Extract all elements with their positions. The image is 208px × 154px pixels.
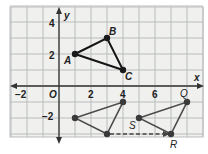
label-c: C xyxy=(125,71,133,82)
y-tick-2: 2 xyxy=(49,50,55,61)
point-a xyxy=(72,51,78,57)
label-a: A xyxy=(63,55,71,66)
origin-label: O xyxy=(49,89,57,100)
label-q: Q xyxy=(180,88,188,99)
label-r: R xyxy=(170,139,177,150)
y-axis-down-arrow-icon xyxy=(56,137,62,144)
x-tick-4: 4 xyxy=(120,89,126,100)
point-intermediate-2 xyxy=(120,99,126,105)
x-tick-neg2: −2 xyxy=(15,89,27,100)
point-intermediate-1 xyxy=(72,115,78,121)
point-s xyxy=(136,115,142,121)
label-b: B xyxy=(109,26,116,37)
x-tick-2: 2 xyxy=(88,89,94,100)
y-tick-4: 4 xyxy=(49,18,55,29)
point-intermediate-3 xyxy=(104,131,110,137)
y-axis-label: y xyxy=(63,10,70,21)
point-r xyxy=(168,131,174,137)
y-tick-neg2: −2 xyxy=(42,111,54,122)
x-axis-label: x xyxy=(193,72,200,83)
coordinate-plane-figure: x y O −2 2 4 6 4 2 −2 A B C xyxy=(0,0,208,154)
label-s: S xyxy=(129,120,136,131)
x-tick-6: 6 xyxy=(152,89,158,100)
point-q xyxy=(184,99,190,105)
